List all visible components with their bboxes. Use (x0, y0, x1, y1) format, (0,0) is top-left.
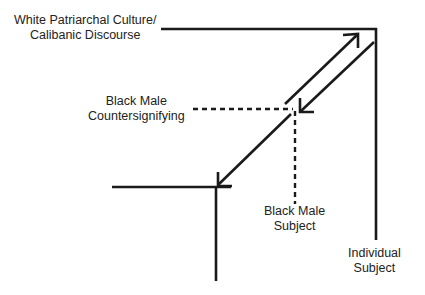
arrow-long-down-left-icon (218, 114, 291, 186)
label-black-male-subject: Black Male Subject (264, 204, 325, 234)
label-black-male-countersignifying: Black Male Countersignifying (88, 94, 185, 124)
label-individual-subject: Individual Subject (348, 246, 401, 276)
label-white-patriarchal-culture: White Patriarchal Culture/ Calibanic Dis… (14, 13, 156, 43)
lower-left-corner (112, 186, 231, 281)
diagram-canvas: White Patriarchal Culture/ Calibanic Dis… (0, 0, 425, 295)
